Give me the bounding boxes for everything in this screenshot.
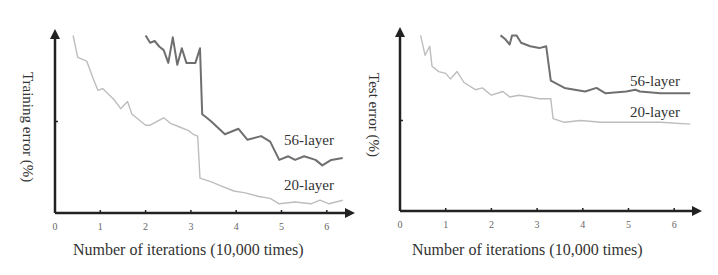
x-tick-label: 1 <box>443 219 448 230</box>
x-tick-label: 6 <box>672 219 677 230</box>
x-tick-label: 0 <box>398 219 403 230</box>
x-tick-label: 1 <box>98 221 103 232</box>
test-error-chart: 0123456 56-layer 20-layer Number of iter… <box>365 32 697 259</box>
x-axis-title: Number of iterations (10,000 times) <box>73 241 304 259</box>
x-tick-label: 6 <box>324 221 329 232</box>
x-tick-label: 3 <box>535 219 540 230</box>
series-label-56-layer: 56-layer <box>630 73 680 89</box>
x-axis-title: Number of iterations (10,000 times) <box>412 241 643 259</box>
training-error-chart: 0123456 56-layer 20-layer Number of iter… <box>19 34 350 259</box>
series-label-56-layer: 56-layer <box>284 132 334 148</box>
x-tick-label: 3 <box>188 221 193 232</box>
series-label-20-layer: 20-layer <box>630 104 680 120</box>
figure: 0123456 56-layer 20-layer Number of iter… <box>0 0 718 275</box>
x-tick-labels: 0123456 <box>53 221 330 232</box>
series-label-20-layer: 20-layer <box>284 177 334 193</box>
x-tick-label: 5 <box>279 221 284 232</box>
y-axis-title: Test error (%) <box>365 73 382 157</box>
x-tick-label: 4 <box>580 219 585 230</box>
x-tick-label: 2 <box>489 219 494 230</box>
x-tick-labels: 0123456 <box>398 219 677 230</box>
x-tick-marks <box>400 121 674 212</box>
x-tick-label: 2 <box>143 221 148 232</box>
x-tick-label: 5 <box>626 219 631 230</box>
x-tick-label: 4 <box>234 221 239 232</box>
x-tick-label: 0 <box>53 221 58 232</box>
y-axis-title: Training error (%) <box>19 72 36 182</box>
